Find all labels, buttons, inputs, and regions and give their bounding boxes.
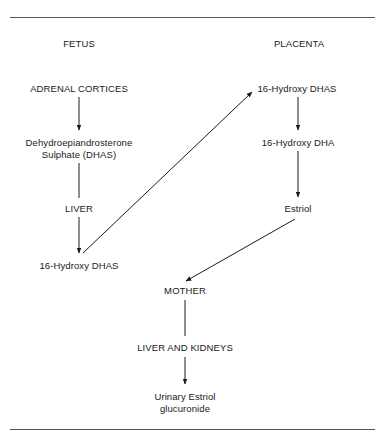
arrow-fetal-to-placental-dhas: [83, 92, 252, 253]
arrow-estriol-to-mother: [186, 219, 295, 281]
connector-arrows: [0, 0, 375, 442]
